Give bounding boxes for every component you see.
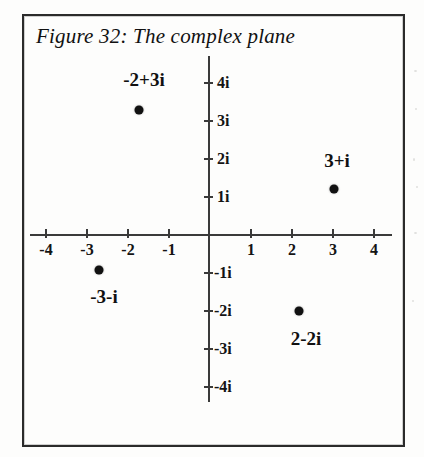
tick-x-4: [373, 229, 375, 238]
tick-x-1: [250, 229, 252, 238]
tick-y-3i: [204, 120, 213, 122]
data-point-label-3+i: 3+i: [324, 150, 350, 172]
tick-label-x--4: -4: [39, 241, 52, 259]
tick-label-x--3: -3: [80, 241, 93, 259]
scan-speck: [413, 158, 415, 161]
data-point-label-2-2i: 2-2i: [291, 328, 322, 350]
tick-label-y-2i: 2i: [217, 150, 229, 168]
tick-x-3: [332, 229, 334, 238]
imaginary-axis: [208, 56, 210, 402]
tick-x--2: [127, 229, 129, 238]
tick-label-y--1i: -1i: [214, 264, 232, 282]
figure-page: Figure 32: The complex plane -4 -3 -2 -1…: [0, 0, 424, 457]
tick-y--3i: [204, 348, 213, 350]
tick-y-2i: [204, 158, 213, 160]
scan-speck: [414, 70, 417, 72]
data-point--3-i: [95, 266, 104, 275]
data-point-label--3-i: -3-i: [90, 286, 117, 308]
tick-label-y--2i: -2i: [214, 302, 232, 320]
tick-label-y-4i: 4i: [217, 74, 229, 92]
tick-y--4i: [204, 386, 213, 388]
tick-label-y-3i: 3i: [217, 112, 229, 130]
tick-label-x-1: 1: [247, 241, 255, 259]
complex-plane-plot: -4 -3 -2 -1 1 2 3 4 4i 3i 2i 1i -1i -2i …: [22, 14, 405, 447]
tick-label-x-2: 2: [288, 241, 296, 259]
scan-speck: [415, 108, 417, 110]
tick-label-y--4i: -4i: [214, 378, 232, 396]
tick-label-y--3i: -3i: [214, 340, 232, 358]
tick-x--3: [86, 229, 88, 238]
tick-label-x--2: -2: [121, 241, 134, 259]
scan-speck: [416, 186, 418, 188]
tick-label-x-4: 4: [370, 241, 378, 259]
data-point-2-2i: [295, 307, 304, 316]
tick-x--4: [45, 229, 47, 238]
data-point--2+3i: [135, 106, 144, 115]
tick-label-y-1i: 1i: [217, 188, 229, 206]
tick-x--1: [168, 229, 170, 238]
tick-y--1i: [204, 272, 213, 274]
tick-x-2: [291, 229, 293, 238]
tick-label-x-3: 3: [329, 241, 337, 259]
scan-speck: [414, 232, 417, 234]
data-point-label--2+3i: -2+3i: [123, 69, 164, 91]
scan-speck: [412, 300, 414, 302]
real-axis: [30, 234, 392, 236]
tick-y-1i: [204, 196, 213, 198]
data-point-3+i: [330, 185, 339, 194]
tick-label-x--1: -1: [162, 241, 175, 259]
tick-y--2i: [204, 310, 213, 312]
tick-y-4i: [204, 82, 213, 84]
